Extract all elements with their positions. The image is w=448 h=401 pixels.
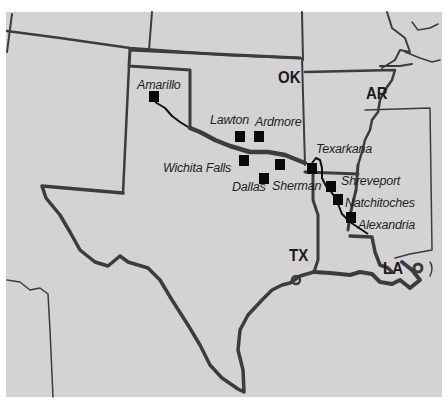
state-label-ok: OK <box>278 68 301 85</box>
city-label-amarillo: Amarillo <box>137 79 181 92</box>
city-label-shreveport: Shreveport <box>341 175 400 188</box>
state-label-tx: TX <box>289 246 308 263</box>
city-label-natchitoches: Natchitoches <box>345 197 415 210</box>
city-label-alexandria: Alexandria <box>358 219 415 232</box>
city-label-texarkana: Texarkana <box>316 143 372 156</box>
city-marker-natchitoches[interactable] <box>333 194 343 205</box>
city-marker-texarkana[interactable] <box>307 163 317 174</box>
city-label-lawton: Lawton <box>210 114 249 127</box>
city-marker-sherman[interactable] <box>275 159 285 170</box>
state-label-ar: AR <box>366 84 388 101</box>
city-marker-lawton[interactable] <box>235 131 245 142</box>
city-marker-shreveport[interactable] <box>326 181 336 192</box>
city-marker-wichita-falls[interactable] <box>239 155 249 166</box>
city-label-dallas: Dallas <box>232 181 266 194</box>
city-marker-alexandria[interactable] <box>346 212 356 223</box>
regional-map: OK AR TX LA Amarillo Lawton Ardmore Wich… <box>0 0 448 401</box>
city-label-wichita-falls: Wichita Falls <box>163 162 231 175</box>
city-label-sherman: Sherman <box>272 180 321 193</box>
city-marker-ardmore[interactable] <box>254 131 264 142</box>
city-marker-amarillo[interactable] <box>149 91 159 102</box>
city-label-ardmore: Ardmore <box>255 116 302 129</box>
state-label-la: LA <box>383 259 403 276</box>
